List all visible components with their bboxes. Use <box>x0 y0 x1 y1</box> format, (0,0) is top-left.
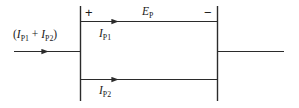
input-current-label: (IP1 + IP2) <box>13 29 57 43</box>
input-current-subscript-1: P1 <box>21 34 29 43</box>
input-current-operator: + <box>29 28 41 40</box>
bottom-branch-current-label: IP2 <box>99 85 111 99</box>
input-current-close-paren: ) <box>53 28 57 40</box>
bottom-branch-current-subscript: P2 <box>103 90 111 99</box>
top-branch-current-label: IP1 <box>99 28 111 42</box>
emf-label: EP <box>142 6 153 20</box>
top-branch-current-subscript: P1 <box>103 33 111 42</box>
positive-polarity-label: + <box>85 6 93 19</box>
emf-subscript: P <box>149 11 153 20</box>
circuit-diagram: (IP1 + IP2) EP IP1 IP2 + − <box>0 0 299 108</box>
emf-symbol: E <box>142 5 149 17</box>
negative-polarity-label: − <box>204 6 212 19</box>
